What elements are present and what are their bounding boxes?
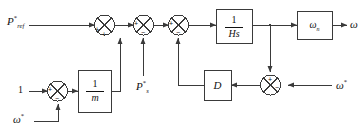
branch-node-forward-path bbox=[269, 24, 272, 27]
block-label-inverse-Hs: 1 Hs bbox=[223, 15, 245, 40]
sign-sum1-left: + bbox=[95, 26, 99, 33]
sign-sum2-left: + bbox=[134, 20, 138, 27]
block-label-inverse-m: 1 m bbox=[84, 79, 106, 104]
input-label-one: 1 bbox=[18, 85, 23, 95]
sign-sum3-bottom: − bbox=[176, 29, 180, 36]
input-label-omega-star-left: ω* bbox=[13, 113, 24, 125]
sign-sum2-bottom: − bbox=[141, 29, 145, 36]
output-label-omega: ω bbox=[350, 19, 358, 30]
input-label-p-s: P*s bbox=[136, 80, 149, 94]
wire-D-to-sum3 bbox=[178, 38, 204, 85]
sign-droop-left: + bbox=[48, 86, 52, 93]
input-label-omega-star-right: ω* bbox=[336, 79, 347, 91]
block-label-omega-n: ωn bbox=[297, 19, 332, 32]
sign-speed-error-right: − bbox=[275, 84, 279, 91]
sign-speed-error-top: + bbox=[268, 76, 272, 83]
block-label-damping-D: D bbox=[204, 79, 231, 91]
sign-sum3-left: + bbox=[169, 20, 173, 27]
input-label-p-ref: P*ref bbox=[7, 15, 24, 29]
wire-invm-to-sum1 bbox=[111, 38, 120, 91]
sign-sum1-bottom: + bbox=[102, 31, 106, 38]
sign-droop-bottom: − bbox=[55, 95, 59, 102]
wire-omegastar-to-sum-droop bbox=[34, 104, 58, 121]
